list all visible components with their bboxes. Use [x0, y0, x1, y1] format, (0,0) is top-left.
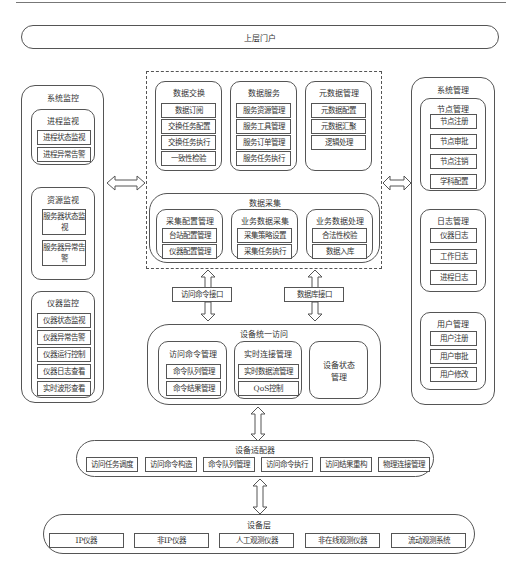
- device-status-mgmt: 设备状态管理: [309, 341, 368, 399]
- database-interface: 数据库接口: [284, 287, 344, 302]
- instrument-monitor-title: 仪器监控: [32, 297, 94, 308]
- access-adapter-double-arrow-icon: [250, 407, 266, 441]
- device-adapter-group: 设备适配器 访问任务调度 访问命令构造 命令队列管理 访问命令执行 访问结果重构…: [76, 440, 434, 477]
- metadata-mgmt-title: 元数据管理: [306, 87, 371, 98]
- command-queue-mgmt: 命令队列管理: [166, 364, 221, 379]
- log-mgmt-group: 日志管理 仪器日志 工作日志 进程日志: [420, 209, 486, 292]
- qos-control: QoS控制: [238, 381, 299, 396]
- process-status-monitor: 进程状态监视: [37, 130, 91, 145]
- metadata-aggregate: 元数据汇聚: [311, 119, 366, 134]
- command-queue-mgmt-adapter: 命令队列管理: [203, 457, 255, 472]
- data-warehousing: 数据入库: [312, 244, 367, 259]
- access-command-build: 访问命令构造: [145, 457, 197, 472]
- realtime-waveform-view: 实时波形查看: [37, 381, 91, 396]
- realtime-stream-mgmt: 实时数据流管理: [238, 364, 299, 379]
- user-register: 用户注册: [430, 331, 477, 346]
- business-data-processing: 业务数据处理 合法性校验 数据入库: [306, 209, 373, 259]
- device-unified-access-title: 设备统一访问: [148, 328, 380, 339]
- access-task-schedule: 访问任务调度: [86, 457, 138, 472]
- metadata-mgmt-group: 元数据管理 元数据配置 元数据汇聚 逻辑处理: [305, 81, 372, 171]
- resource-monitor-group: 资源监视 服务器状态监视 服务器异常告警: [31, 187, 95, 280]
- consistency-check: 一致性检验: [161, 151, 216, 166]
- service-resource-mgmt: 服务资源管理: [236, 103, 291, 118]
- command-interface-down-arrow-icon: [200, 302, 216, 322]
- command-result-mgmt: 命令结果管理: [166, 381, 221, 396]
- station-config-mgmt: 台站配置管理: [162, 228, 217, 243]
- upper-portal-label: 上层门户: [22, 32, 498, 43]
- access-command-execute: 访问命令执行: [261, 457, 313, 472]
- collection-strategy-setting: 采集策略设置: [237, 228, 292, 243]
- system-mgmt-panel: 系统管理 节点管理 节点注册 节点审批 节点注销 学科配置 日志管理 仪器日志 …: [411, 77, 495, 405]
- device-unified-access-group: 设备统一访问 访问命令管理 命令队列管理 命令结果管理 实时连接管理 实时数据流…: [147, 324, 381, 405]
- discipline-config: 学科配置: [430, 174, 477, 189]
- server-status-monitor: 服务器状态监视: [42, 209, 86, 235]
- instrument-config-mgmt: 仪器配置管理: [162, 244, 217, 259]
- instrument-exception-alarm: 仪器异常告警: [37, 330, 91, 345]
- service-order-mgmt: 服务订单管理: [236, 135, 291, 150]
- top-rule: [16, 2, 506, 3]
- metadata-config: 元数据配置: [311, 103, 366, 118]
- manual-observation-instrument: 人工观测仪器: [219, 533, 294, 548]
- realtime-connection-mgmt: 实时连接管理 实时数据流管理 QoS控制: [234, 341, 302, 399]
- collection-config-title: 采集配置管理: [157, 215, 222, 226]
- database-interface-down-arrow-icon: [307, 302, 323, 322]
- user-mgmt-group: 用户管理 用户注册 用户审批 用户修改: [420, 312, 486, 390]
- right-double-arrow-icon: [382, 175, 412, 191]
- service-task-execute: 服务任务执行: [236, 151, 291, 166]
- resource-monitor-title: 资源监视: [32, 194, 94, 205]
- offline-observation-instrument: 非在线观测仪器: [305, 533, 380, 548]
- system-monitor-title: 系统监控: [22, 92, 103, 103]
- access-result-rebuild: 访问结果重构: [320, 457, 372, 472]
- device-adapter-title: 设备适配器: [77, 444, 433, 455]
- instrument-run-control: 仪器运行控制: [37, 347, 91, 362]
- validity-check: 合法性校验: [312, 228, 367, 243]
- adapter-device-double-arrow-icon: [252, 479, 268, 514]
- user-approve: 用户审批: [430, 349, 477, 364]
- system-monitor-panel: 系统监控 进程监视 进程状态监视 进程异常告警 资源监视 服务器状态监视 服务器…: [21, 85, 104, 403]
- left-double-arrow-icon: [106, 175, 146, 191]
- realtime-connection-mgmt-title: 实时连接管理: [235, 348, 301, 359]
- system-mgmt-title: 系统管理: [412, 84, 494, 95]
- upper-portal: 上层门户: [21, 25, 499, 49]
- node-mgmt-group: 节点管理 节点注册 节点审批 节点注销 学科配置: [420, 98, 486, 191]
- data-exchange-title: 数据交换: [156, 87, 221, 98]
- server-exception-alarm: 服务器异常告警: [42, 240, 86, 266]
- exchange-task-execute: 交换任务执行: [161, 135, 216, 150]
- data-collection-group: 数据采集 采集配置管理 台站配置管理 仪器配置管理 业务数据采集 采集策略设置 …: [149, 193, 380, 263]
- instrument-log: 仪器日志: [430, 228, 477, 243]
- process-monitor-group: 进程监视 进程状态监视 进程异常告警: [31, 109, 95, 165]
- service-tool-mgmt: 服务工具管理: [236, 119, 291, 134]
- data-exchange-group: 数据交换 数据订阅 交换任务配置 交换任务执行 一致性检验: [155, 81, 222, 171]
- node-approve: 节点审批: [430, 134, 477, 149]
- instrument-monitor-group: 仪器监控 仪器状态监视 仪器异常告警 仪器运行控制 仪器日志查看 实时波形查看: [31, 291, 95, 398]
- collection-task-execute: 采集任务执行: [237, 244, 292, 259]
- access-command-mgmt: 访问命令管理 命令队列管理 命令结果管理: [158, 341, 227, 399]
- collection-config-mgmt: 采集配置管理 台站配置管理 仪器配置管理: [156, 209, 223, 259]
- process-monitor-title: 进程监视: [32, 115, 94, 126]
- node-register: 节点注册: [430, 114, 477, 129]
- data-subscribe: 数据订阅: [161, 103, 216, 118]
- device-layer-group: 设备层 IP仪器 非IP仪器 人工观测仪器 非在线观测仪器 流动观测系统: [43, 514, 475, 554]
- physical-connection-mgmt: 物理连接管理: [378, 457, 430, 472]
- mobile-observation-system: 流动观测系统: [391, 533, 466, 548]
- device-layer-title: 设备层: [44, 519, 474, 530]
- log-mgmt-title: 日志管理: [421, 215, 485, 226]
- business-data-processing-title: 业务数据处理: [307, 215, 372, 226]
- access-command-mgmt-title: 访问命令管理: [159, 348, 226, 359]
- ip-instrument: IP仪器: [49, 533, 124, 548]
- instrument-log-view: 仪器日志查看: [37, 364, 91, 379]
- data-service-group: 数据服务 服务资源管理 服务工具管理 服务订单管理 服务任务执行: [230, 81, 297, 171]
- non-ip-instrument: 非IP仪器: [134, 533, 209, 548]
- node-deregister: 节点注销: [430, 154, 477, 169]
- logic-processing: 逻辑处理: [311, 135, 366, 150]
- exchange-task-config: 交换任务配置: [161, 119, 216, 134]
- user-mgmt-title: 用户管理: [421, 318, 485, 329]
- instrument-status-monitor: 仪器状态监视: [37, 313, 91, 328]
- node-mgmt-title: 节点管理: [421, 103, 485, 114]
- work-log: 工作日志: [430, 249, 477, 264]
- data-collection-title: 数据采集: [150, 197, 379, 208]
- user-modify: 用户修改: [430, 367, 477, 382]
- business-data-collection-title: 业务数据采集: [232, 215, 297, 226]
- data-service-title: 数据服务: [231, 87, 296, 98]
- business-data-collection: 业务数据采集 采集策略设置 采集任务执行: [231, 209, 298, 259]
